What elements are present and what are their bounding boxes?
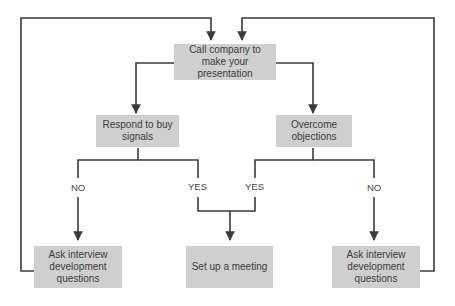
ask-questions-right-label: Ask interview development questions — [334, 249, 418, 285]
meeting-label: Set up a meeting — [192, 261, 268, 273]
left-no-label: NO — [70, 182, 86, 193]
right-no-label: NO — [366, 182, 382, 193]
start-node: Call company to make your presentation — [174, 44, 276, 80]
meeting-node: Set up a meeting — [186, 246, 273, 288]
right-yes-label: YES — [244, 181, 265, 192]
left-yes-label: YES — [187, 181, 208, 192]
ask-questions-left-node: Ask interview development questions — [34, 246, 122, 288]
objections-node: Overcome objections — [276, 115, 352, 147]
ask-questions-left-label: Ask interview development questions — [36, 249, 120, 285]
buy-signals-node: Respond to buy signals — [96, 115, 179, 147]
ask-questions-right-node: Ask interview development questions — [332, 246, 420, 288]
objections-label: Overcome objections — [278, 119, 350, 143]
buy-signals-label: Respond to buy signals — [98, 119, 177, 143]
start-node-label: Call company to make your presentation — [176, 44, 274, 80]
